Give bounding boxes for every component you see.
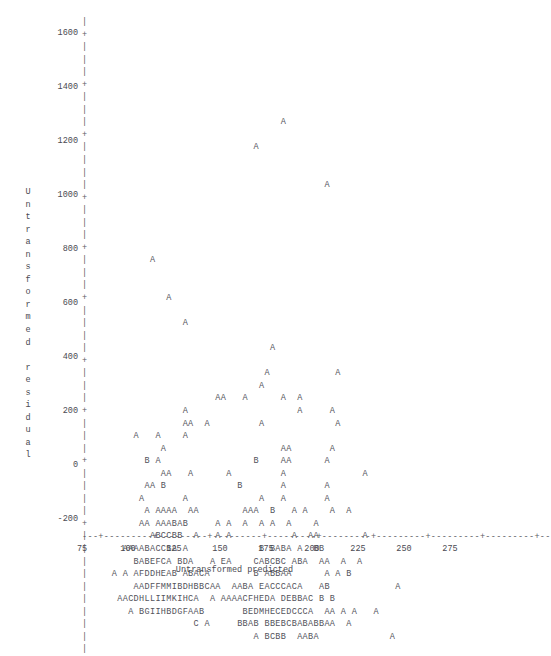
y-axis-tick-mark: + <box>82 79 87 92</box>
y-axis-label-char: n <box>22 199 34 212</box>
y-axis-spine-segment: | <box>82 367 87 380</box>
y-axis-label-char: i <box>22 399 34 412</box>
plot-row <box>90 16 462 29</box>
plot-row <box>90 330 462 343</box>
y-axis-spine-segment: | <box>82 116 87 129</box>
y-axis-label-char: U <box>22 186 34 199</box>
plot-row <box>90 104 462 117</box>
x-axis-tick-label: 200 <box>304 543 319 555</box>
y-axis-spine-segment: | <box>82 141 87 154</box>
plot-row <box>90 79 462 92</box>
plot-data-area: A A <box>90 16 462 656</box>
y-axis-tick-mark: + <box>82 455 87 468</box>
y-axis-label-char: r <box>22 224 34 237</box>
y-axis-tick-mark: + <box>82 292 87 305</box>
plot-row: A BCBB AABA A <box>90 631 462 644</box>
plot-row <box>90 217 462 230</box>
y-axis-tick-label: 1400 <box>58 82 78 93</box>
y-axis-tick-mark: + <box>82 29 87 42</box>
x-axis-tick-label: 225 <box>350 543 365 555</box>
plot-row: A <box>90 141 462 154</box>
plot-row: A <box>90 116 462 129</box>
plot-row <box>90 192 462 205</box>
y-axis-spine-segment: | <box>82 430 87 443</box>
plot-row: A <box>90 317 462 330</box>
y-axis-label-char: e <box>22 374 34 387</box>
plot-row <box>90 267 462 280</box>
y-axis-spine-segment: | <box>82 380 87 393</box>
plot-row: A <box>90 179 462 192</box>
plot-row: AADFFMMIBDHBBCAA AABA EACCCACA AB A <box>90 581 462 594</box>
y-axis-tick-label: 1600 <box>58 28 78 39</box>
y-axis-tick-label: 1000 <box>58 190 78 201</box>
y-axis-spine-segment: | <box>82 279 87 292</box>
y-axis-spine-segment: | <box>82 16 87 29</box>
y-axis-spine-segment: | <box>82 204 87 217</box>
x-axis-tick-label: 250 <box>396 543 411 555</box>
y-axis-tick-label: -200 <box>58 514 78 525</box>
plot-row: A <box>90 254 462 267</box>
x-axis-tick-label: 275 <box>442 543 457 555</box>
plot-row <box>90 167 462 180</box>
y-axis-label-char: s <box>22 261 34 274</box>
y-axis-tick-label: 1200 <box>58 136 78 147</box>
x-axis-tick-label: 150 <box>212 543 227 555</box>
y-axis-spine-segment: | <box>82 618 87 631</box>
y-axis-label-char: d <box>22 412 34 425</box>
y-axis-label-char: f <box>22 274 34 287</box>
plot-row: AA B B A A <box>90 480 462 493</box>
y-axis-spine-segment: | <box>82 418 87 431</box>
y-axis-tick-mark: + <box>82 405 87 418</box>
plot-row <box>90 154 462 167</box>
y-axis-label-char: l <box>22 449 34 462</box>
plot-row <box>90 204 462 217</box>
plot-row <box>90 29 462 42</box>
y-axis-tick-label: 600 <box>63 298 78 309</box>
y-axis-spine-segment: | <box>82 91 87 104</box>
y-axis-spine-segment: | <box>82 41 87 54</box>
y-axis-spine-segment: | <box>82 104 87 117</box>
y-axis-label-char: r <box>22 362 34 375</box>
y-axis-tick-mark: + <box>82 355 87 368</box>
y-axis-label-char: a <box>22 236 34 249</box>
plot-row <box>90 66 462 79</box>
y-axis-spine-segment: | <box>82 154 87 167</box>
y-axis-spine-segment: | <box>82 493 87 506</box>
y-axis-label-char: t <box>22 211 34 224</box>
y-axis-spine-segment: | <box>82 443 87 456</box>
y-axis-spine-segment: | <box>82 330 87 343</box>
plot-row <box>90 91 462 104</box>
x-axis-spine: ---+---------+---------+---------+------… <box>82 532 551 542</box>
y-axis-label-char: s <box>22 387 34 400</box>
x-axis-tick-label: 125 <box>166 543 181 555</box>
y-axis-label-char: d <box>22 337 34 350</box>
plot-row: A <box>90 292 462 305</box>
y-axis-spine-segment: | <box>82 593 87 606</box>
y-axis-tick-mark: + <box>82 518 87 531</box>
y-axis-spine-segment: | <box>82 480 87 493</box>
plot-row <box>90 279 462 292</box>
plot-row: AA A A A <box>90 418 462 431</box>
y-axis-tick-label: 200 <box>63 406 78 417</box>
y-axis-label-char: r <box>22 299 34 312</box>
y-axis-label-char: n <box>22 249 34 262</box>
y-axis-label-char: u <box>22 424 34 437</box>
y-axis-tick-mark: + <box>82 129 87 142</box>
plot-row: AA A A A A <box>90 468 462 481</box>
y-axis-label-char: a <box>22 437 34 450</box>
plot-row <box>90 129 462 142</box>
plot-row <box>90 229 462 242</box>
y-axis-spine-segment: | <box>82 505 87 518</box>
y-axis-spine-segment: | <box>82 606 87 619</box>
y-axis-label-char: o <box>22 286 34 299</box>
y-axis-tick-mark: + <box>82 192 87 205</box>
plot-row <box>90 305 462 318</box>
y-axis-spine-segment: | <box>82 643 87 656</box>
plot-row: A A A <box>90 405 462 418</box>
x-axis-tick-label: 75 <box>77 543 87 555</box>
plot-row <box>90 242 462 255</box>
x-axis-tick-labels: 75100125150175200225250275 <box>0 543 469 557</box>
plot-row <box>90 355 462 368</box>
plot-row <box>90 54 462 67</box>
y-axis-spine-segment: | <box>82 66 87 79</box>
